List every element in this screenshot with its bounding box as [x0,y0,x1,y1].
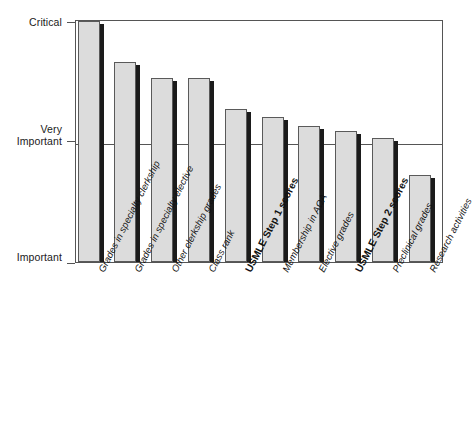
bar-shadow [431,178,435,262]
bar-shadow [247,112,251,262]
bar[interactable] [78,21,104,262]
plot-area [75,20,443,263]
y-axis-tick-critical [67,22,75,23]
y-axis-label-important: Important [0,252,62,264]
x-axis-labels: Grades in specialty clerkshipGrades in s… [0,263,461,425]
y-axis-label-very-important: Very Important [0,124,62,147]
bar-shadow [136,65,140,262]
y-axis-label-critical: Critical [0,17,62,29]
bar-shadow [357,134,361,262]
bar-shadow [100,24,104,262]
bar-body [78,21,100,262]
y-axis-tick-very-important [67,141,75,142]
bar-shadow [173,81,177,262]
bar-shadow [210,81,214,262]
